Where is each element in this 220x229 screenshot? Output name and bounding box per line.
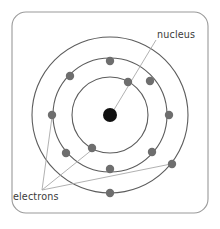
- electron-dot: [106, 57, 114, 65]
- electron-dot: [148, 148, 156, 156]
- atom-diagram: nucleus electrons: [0, 0, 220, 229]
- diagram-canvas: nucleus electrons: [0, 0, 220, 229]
- electron-dot: [88, 144, 96, 152]
- nucleus-label: nucleus: [157, 29, 195, 40]
- nucleus-dot: [103, 108, 117, 122]
- electron-dot: [168, 160, 176, 168]
- electron-dot: [62, 149, 70, 157]
- electron-dot: [48, 111, 56, 119]
- electron-dot: [106, 189, 114, 197]
- electron-dot: [106, 165, 114, 173]
- electron-dot: [124, 78, 132, 86]
- electron-dot: [165, 111, 173, 119]
- electron-dot: [66, 72, 74, 80]
- electrons-label: electrons: [13, 191, 59, 202]
- electron-dot: [146, 77, 154, 85]
